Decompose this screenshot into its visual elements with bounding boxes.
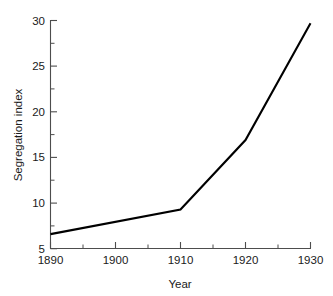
- chart-figure: Segregation index Year 30 25 20 15 10 5: [0, 0, 333, 296]
- x-axis-title: Year: [168, 278, 191, 290]
- y-tick-label-30: 30: [32, 15, 45, 27]
- x-tick-label-1910: 1910: [168, 254, 194, 266]
- y-tick-label-5: 5: [39, 243, 45, 255]
- y-axis-title: Segregation index: [12, 88, 24, 181]
- x-tick-label-1890: 1890: [38, 254, 64, 266]
- data-series-segregation-index: [51, 23, 311, 234]
- line-chart: Segregation index Year 30 25 20 15 10 5: [0, 0, 333, 296]
- y-tick-label-20: 20: [32, 106, 45, 118]
- x-tick-label-1900: 1900: [103, 254, 129, 266]
- y-tick-label-15: 15: [32, 151, 45, 163]
- x-tick-label-1930: 1930: [298, 254, 324, 266]
- y-tick-label-10: 10: [32, 197, 45, 209]
- x-tick-label-1920: 1920: [233, 254, 259, 266]
- y-axis-minor-ticks: [51, 43, 55, 226]
- x-axis-ticks: 1890 1900 1910 1920 1930: [38, 242, 324, 266]
- y-tick-label-25: 25: [32, 60, 45, 72]
